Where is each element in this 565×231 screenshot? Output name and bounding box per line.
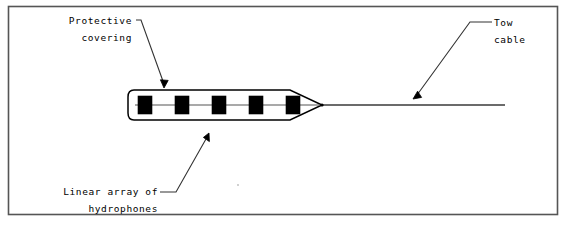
label-linear-array-line1: Linear array of xyxy=(63,186,158,197)
cable-attachment-point xyxy=(320,103,323,106)
leader-line-protective-covering xyxy=(136,20,164,84)
leader-line-tow-cable xyxy=(417,22,492,95)
label-linear-array: Linear array ofhydrophones xyxy=(36,183,158,217)
label-tow-cable: Towcable xyxy=(494,14,558,48)
label-protective-covering: Protectivecovering xyxy=(38,12,132,46)
figure-canvas: Protectivecovering Towcable Linear array… xyxy=(0,0,565,231)
label-tow-cable-line2: cable xyxy=(494,34,526,45)
arrowhead-tow-cable xyxy=(413,91,422,99)
leader-tow-cable xyxy=(413,22,492,99)
scan-artifact-speck xyxy=(237,184,239,186)
label-tow-cable-line1: Tow xyxy=(494,17,513,28)
arrowhead-linear-array xyxy=(203,133,209,142)
arrowhead-protective-covering xyxy=(160,80,168,88)
leader-protective-covering xyxy=(136,20,168,88)
leader-linear-array xyxy=(160,133,209,192)
label-protective-covering-line1: Protective xyxy=(69,15,132,26)
label-linear-array-line2: hydrophones xyxy=(88,203,158,214)
hydrophone-element xyxy=(138,96,152,114)
hydrophone-element xyxy=(175,96,189,114)
leader-line-linear-array xyxy=(160,139,206,192)
hydrophone-element xyxy=(249,96,263,114)
hydrophone-element xyxy=(212,96,226,114)
label-protective-covering-line2: covering xyxy=(81,32,132,43)
hydrophone-element xyxy=(286,96,300,114)
